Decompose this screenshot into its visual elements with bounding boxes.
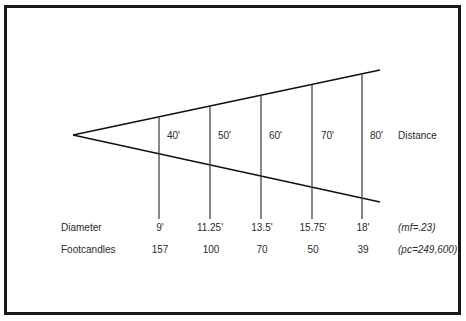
- footcandles-value-80: 39: [357, 244, 368, 256]
- diameter-value-40: 9': [156, 222, 163, 234]
- cone-upper-edge: [73, 70, 380, 135]
- footcandles-note: (pc=249,600): [398, 244, 457, 256]
- diameter-value-70: 15.75': [300, 222, 327, 234]
- diameter-value-50: 11.25': [197, 222, 223, 234]
- footcandles-value-70: 50: [307, 244, 318, 256]
- distance-label-50: 50': [218, 130, 231, 142]
- diameter-value-60: 13.5': [251, 222, 272, 234]
- footcandles-value-40: 157: [152, 244, 169, 256]
- footcandles-value-50: 100: [203, 244, 220, 256]
- distance-label-70: 70': [321, 130, 334, 142]
- distance-label-40: 40': [167, 130, 180, 142]
- distance-label-60: 60': [269, 130, 282, 142]
- distance-row-label: Distance: [398, 130, 437, 142]
- diameter-note: (mf=.23): [398, 222, 436, 234]
- distance-label-80: 80': [370, 130, 383, 142]
- diameter-row-label: Diameter: [61, 222, 102, 234]
- beam-spread-cone: [0, 0, 466, 321]
- cone-lower-edge: [73, 135, 380, 202]
- footcandles-row-label: Footcandles: [61, 244, 115, 256]
- footcandles-value-60: 70: [256, 244, 267, 256]
- diameter-value-80: 18': [356, 222, 369, 234]
